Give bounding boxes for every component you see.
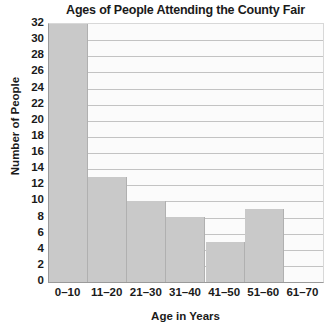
y-axis-tick-label: 0	[4, 275, 44, 287]
x-axis-tick-label: 21–30	[126, 286, 165, 298]
x-axis-tick-label: 41–50	[205, 286, 244, 298]
plot-area	[48, 23, 324, 283]
y-axis-tick-label: 12	[4, 178, 44, 190]
x-axis-tick-label: 11–20	[87, 286, 126, 298]
y-axis-tick-label: 32	[4, 17, 44, 29]
y-axis-tick-label: 28	[4, 49, 44, 61]
x-axis-tick-label: 51–60	[244, 286, 283, 298]
bar	[127, 201, 166, 282]
y-axis-tick-label: 4	[4, 243, 44, 255]
bar	[49, 24, 88, 282]
y-axis-tick-label: 24	[4, 82, 44, 94]
y-axis-tick-label: 16	[4, 146, 44, 158]
bar-chart: Ages of People Attending the County Fair…	[0, 0, 334, 333]
y-axis-tick-label: 20	[4, 114, 44, 126]
y-axis-tick-label: 26	[4, 65, 44, 77]
x-axis-tick-label: 31–40	[165, 286, 204, 298]
y-axis-tick-label: 30	[4, 33, 44, 45]
bar-series	[49, 24, 323, 282]
y-axis-tick-label: 22	[4, 98, 44, 110]
x-axis-label: Age in Years	[48, 310, 323, 322]
bar	[206, 242, 245, 282]
y-axis-tick-label: 14	[4, 162, 44, 174]
bar	[88, 177, 127, 282]
x-axis-tick-label: 61–70	[283, 286, 322, 298]
y-axis-tick-label: 2	[4, 259, 44, 271]
bar	[245, 209, 284, 282]
bar	[166, 217, 205, 282]
y-axis-tick-label: 18	[4, 130, 44, 142]
x-axis-tick-label: 0–10	[48, 286, 87, 298]
y-axis-tick-label: 8	[4, 211, 44, 223]
y-axis-tick-label: 6	[4, 227, 44, 239]
y-axis-tick-label: 10	[4, 194, 44, 206]
chart-title: Ages of People Attending the County Fair	[48, 3, 323, 17]
